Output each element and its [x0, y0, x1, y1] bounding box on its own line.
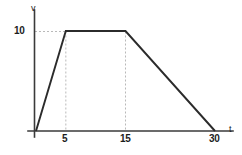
- chart-canvas: [0, 0, 242, 155]
- y-axis-label: v: [31, 4, 36, 13]
- y-tick-label-10: 10: [14, 26, 25, 36]
- velocity-time-chart: v t 10 5 15 30: [0, 0, 242, 155]
- x-tick-label-30: 30: [209, 134, 220, 144]
- x-tick-label-15: 15: [120, 134, 131, 144]
- x-tick-label-5: 5: [62, 134, 67, 144]
- x-axis-label: t: [229, 125, 232, 134]
